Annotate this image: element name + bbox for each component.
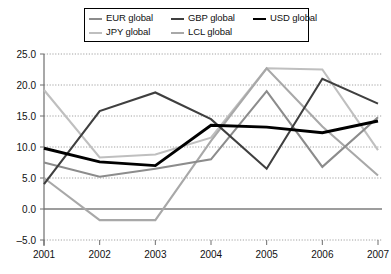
series-line-lcl (44, 68, 378, 220)
legend-label-jpy-global: JPY global (106, 27, 150, 37)
y-tick-label: 20.0 (17, 80, 37, 91)
legend-item-jpy-global: JPY global (89, 27, 171, 37)
legend-swatch-lcl-global (171, 32, 184, 34)
legend-item-gbp-global: GBP global (171, 13, 253, 23)
series-lines (44, 68, 378, 220)
x-tick-label: 2001 (33, 249, 56, 260)
x-tick-label: 2004 (200, 249, 223, 260)
y-tick-labels: –5.00.05.010.015.020.025.0 (17, 49, 37, 246)
y-tick-label: 0.0 (22, 204, 36, 215)
x-tick-label: 2005 (256, 249, 279, 260)
legend-label-eur-global: EUR global (106, 13, 153, 23)
legend-swatch-jpy-global (89, 32, 102, 34)
y-tick-label: 25.0 (17, 49, 37, 60)
y-tick-label: 10.0 (17, 142, 37, 153)
x-axis (44, 240, 378, 245)
x-tick-label: 2002 (89, 249, 112, 260)
legend-item-usd-global: USD global (253, 13, 317, 23)
y-tick-label: –5.0 (17, 235, 37, 246)
chart-legend: EUR global GBP global USD global JPY glo… (84, 8, 309, 42)
legend-item-eur-global: EUR global (89, 13, 171, 23)
y-tick-label: 5.0 (22, 173, 36, 184)
series-line-eur (44, 91, 378, 177)
x-tick-labels: 2001200220032004200520062007 (33, 249, 390, 260)
x-tick-label: 2007 (367, 249, 390, 260)
x-tick-label: 2006 (311, 249, 334, 260)
legend-item-lcl-global: LCL global (171, 27, 253, 37)
y-tick-label: 15.0 (17, 111, 37, 122)
legend-label-usd-global: USD global (270, 13, 317, 23)
legend-swatch-eur-global (89, 18, 102, 20)
x-tick-label: 2003 (144, 249, 167, 260)
plot-svg: –5.00.05.010.015.020.025.0 2001200220032… (0, 46, 391, 274)
legend-label-gbp-global: GBP global (188, 13, 235, 23)
legend-swatch-gbp-global (171, 18, 184, 20)
line-chart: EUR global GBP global USD global JPY glo… (0, 0, 391, 274)
plot-area: –5.00.05.010.015.020.025.0 2001200220032… (0, 46, 391, 274)
legend-label-lcl-global: LCL global (188, 27, 232, 37)
legend-swatch-usd-global (253, 18, 266, 20)
